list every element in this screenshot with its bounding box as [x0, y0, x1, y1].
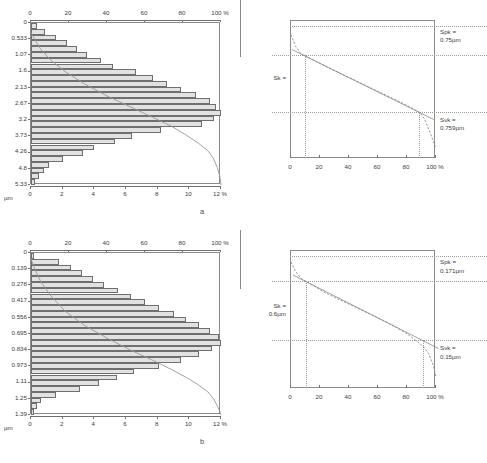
histogram-top-tick-mark [220, 250, 221, 253]
histogram-ytick-label: 0.834 [0, 346, 27, 352]
histogram-ytick-label: 2.13 [0, 84, 27, 90]
histogram-ytick-mark [28, 168, 31, 169]
histogram-ytick-label: 1.25 [0, 395, 27, 401]
histogram-ytick-label: 3.73 [0, 132, 27, 138]
histogram-ytick-label: 0.278 [0, 281, 27, 287]
abbott-xtick-mark [377, 385, 378, 388]
mr2-reference-line [419, 112, 420, 158]
histogram-ytick-label: 1.6 [0, 67, 27, 73]
sk-bracket [240, 0, 241, 57]
histogram-ytick-mark [28, 184, 31, 185]
abbott-curve [291, 251, 436, 389]
histogram-bottom-tick-mark [220, 416, 221, 419]
svk-value: 0.15µm [440, 353, 461, 361]
histogram-bottom-tick-label: 12 % [206, 421, 234, 427]
svk-value: 0.759µm [440, 124, 464, 132]
histogram-top-tick-label: 40 [92, 10, 120, 16]
abbott-xtick-label: 80 [392, 164, 420, 170]
histogram-top-tick-label: 60 [130, 10, 158, 16]
histogram-y-unit-label: µm [4, 194, 13, 201]
histogram-ytick-mark [28, 119, 31, 120]
histogram-ytick-mark [28, 284, 31, 285]
histogram-bottom-tick-label: 6 [111, 191, 139, 197]
histogram-top-axis-line [30, 20, 220, 21]
histogram-ytick-label: 4.8 [0, 165, 27, 171]
histogram-b-plot-area [30, 252, 220, 414]
histogram-ytick-mark [28, 349, 31, 350]
abbott-xtick-label: 40 [334, 164, 362, 170]
spk-annotation: Spk =0.75µm [440, 28, 461, 45]
histogram-y-unit-label: µm [4, 424, 13, 431]
cumulative-curve [31, 253, 221, 415]
sk-label: Sk = [244, 302, 286, 310]
abbott-xtick-mark [406, 155, 407, 158]
histogram-ytick-label: 1.11 [0, 378, 27, 384]
panel-b-caption: b [200, 437, 204, 446]
abbott-xtick-label: 0 [276, 164, 304, 170]
histogram-bottom-tick-label: 10 [174, 421, 202, 427]
svk-annotation: Svk =0.15µm [440, 344, 461, 361]
abbott-xtick-label: 40 [334, 394, 362, 400]
histogram-ytick-mark [28, 22, 31, 23]
histogram-top-tick-label: 60 [130, 240, 158, 246]
abbott-a-plot-area [290, 20, 435, 158]
histogram-ytick-mark [28, 414, 31, 415]
abbott-curve [291, 21, 436, 159]
histogram-ytick-label: 0.533 [0, 35, 27, 41]
histogram-ytick-mark [28, 135, 31, 136]
abbott-b-plot-area [290, 250, 435, 388]
histogram-ytick-label: 4.26 [0, 148, 27, 154]
mr2-reference-line [423, 340, 424, 388]
histogram-bottom-tick-label: 4 [79, 191, 107, 197]
abbott-xtick-mark [319, 385, 320, 388]
histogram-bottom-tick-label: 0 [16, 421, 44, 427]
abbott-xtick-mark [290, 385, 291, 388]
histogram-bottom-tick-label: 2 [48, 191, 76, 197]
histogram-ytick-label: 2.67 [0, 100, 27, 106]
histogram-bottom-axis-line [30, 416, 220, 417]
histogram-a-plot-area [30, 22, 220, 184]
histogram-top-tick-label: 0 [16, 240, 44, 246]
histogram-top-tick-label: 100 % [206, 240, 234, 246]
histogram-ytick-label: 0 [0, 249, 27, 255]
histogram-ytick-label: 5.33 [0, 181, 27, 187]
abbott-xtick-mark [377, 155, 378, 158]
histogram-top-tick-label: 80 [168, 240, 196, 246]
abbott-xtick-mark [348, 385, 349, 388]
sk-value: 0.6µm [244, 310, 286, 318]
histogram-ytick-label: 1.07 [0, 51, 27, 57]
spk-value: 0.75µm [440, 36, 461, 44]
histogram-panel-b: b 00.1390.2780.4170.5560.6950.8340.9731.… [0, 230, 240, 460]
histogram-bottom-tick-label: 4 [79, 421, 107, 427]
histogram-ytick-mark [28, 54, 31, 55]
abbott-xtick-label: 100 % [421, 164, 449, 170]
spk-label: Spk = [440, 28, 461, 36]
abbott-xtick-mark [348, 155, 349, 158]
histogram-ytick-label: 0 [0, 19, 27, 25]
spk-reference-line [290, 26, 487, 27]
histogram-bottom-tick-label: 8 [143, 421, 171, 427]
histogram-ytick-mark [28, 103, 31, 104]
histogram-ytick-mark [28, 252, 31, 253]
histogram-ytick-label: 0.139 [0, 265, 27, 271]
sk-annotation: Sk =0.6µm [244, 302, 286, 319]
histogram-top-tick-mark [220, 20, 221, 23]
histogram-top-tick-label: 20 [54, 10, 82, 16]
histogram-top-tick-label: 40 [92, 240, 120, 246]
histogram-ytick-label: 1.39 [0, 411, 27, 417]
histogram-top-tick-label: 0 [16, 10, 44, 16]
histogram-ytick-mark [28, 365, 31, 366]
histogram-bottom-tick-mark [220, 186, 221, 189]
histogram-ytick-label: 0.417 [0, 297, 27, 303]
histogram-ytick-mark [28, 152, 31, 153]
spk-label: Spk = [440, 258, 464, 266]
histogram-ytick-mark [28, 317, 31, 318]
abbott-xtick-label: 20 [305, 164, 333, 170]
histogram-top-axis-line [30, 250, 220, 251]
histogram-top-tick-label: 20 [54, 240, 82, 246]
mr1-reference-line [306, 281, 307, 388]
histogram-bottom-tick-label: 8 [143, 191, 171, 197]
histogram-ytick-mark [28, 268, 31, 269]
histogram-bottom-tick-label: 6 [111, 421, 139, 427]
histogram-ytick-mark [28, 38, 31, 39]
